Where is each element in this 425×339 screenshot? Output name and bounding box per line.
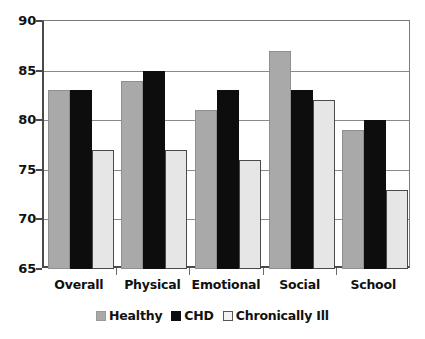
y-axis-tick-85 bbox=[36, 70, 42, 72]
x-axis-tick-1 bbox=[116, 268, 117, 275]
plot-area bbox=[42, 20, 410, 268]
bar-chronically-ill-social bbox=[313, 100, 335, 269]
y-axis-tick-90 bbox=[36, 20, 42, 22]
chd-swatch bbox=[171, 311, 181, 321]
legend-label-chronically-ill: Chronically Ill bbox=[236, 308, 329, 323]
chronically-ill-swatch bbox=[223, 311, 233, 321]
y-axis-tick-65 bbox=[36, 268, 42, 270]
legend-item-chronically-ill[interactable]: Chronically Ill bbox=[223, 308, 329, 323]
x-axis-tick-4 bbox=[336, 268, 337, 275]
bar-healthy-physical bbox=[121, 81, 143, 269]
legend-label-chd: CHD bbox=[184, 308, 213, 323]
x-axis-tick-3 bbox=[263, 268, 264, 275]
legend-item-healthy[interactable]: Healthy bbox=[96, 308, 162, 323]
bar-chronically-ill-school bbox=[386, 190, 408, 269]
grouped-bar-chart: 657075808590 OverallPhysicalEmotionalSoc… bbox=[0, 0, 425, 339]
bar-chronically-ill-physical bbox=[165, 150, 187, 269]
x-axis-label-overall: Overall bbox=[54, 277, 103, 292]
y-axis-label-70: 70 bbox=[0, 211, 36, 226]
y-axis-label-75: 75 bbox=[0, 161, 36, 176]
bar-chd-physical bbox=[143, 71, 165, 269]
bar-healthy-emotional bbox=[195, 110, 217, 269]
x-axis-tick-2 bbox=[189, 268, 190, 275]
y-axis-tick-75 bbox=[36, 169, 42, 171]
y-axis-tick-labels: 657075808590 bbox=[0, 20, 36, 268]
x-axis-label-social: Social bbox=[279, 277, 320, 292]
bar-chd-school bbox=[364, 120, 386, 269]
chart-legend: HealthyCHDChronically Ill bbox=[0, 308, 425, 323]
bar-chd-emotional bbox=[217, 90, 239, 269]
bar-chronically-ill-overall bbox=[92, 150, 114, 269]
y-axis-tick-70 bbox=[36, 218, 42, 220]
y-axis-label-90: 90 bbox=[0, 13, 36, 28]
bar-chd-social bbox=[291, 90, 313, 269]
y-axis-tick-80 bbox=[36, 119, 42, 121]
y-axis-label-80: 80 bbox=[0, 112, 36, 127]
bar-chd-overall bbox=[70, 90, 92, 269]
legend-item-chd[interactable]: CHD bbox=[171, 308, 213, 323]
healthy-swatch bbox=[96, 311, 106, 321]
bar-chronically-ill-emotional bbox=[239, 160, 261, 269]
x-axis-label-emotional: Emotional bbox=[192, 277, 261, 292]
y-axis-label-65: 65 bbox=[0, 261, 36, 276]
y-axis-label-85: 85 bbox=[0, 62, 36, 77]
bar-healthy-school bbox=[342, 130, 364, 269]
bar-healthy-social bbox=[269, 51, 291, 269]
x-axis-label-physical: Physical bbox=[124, 277, 180, 292]
bar-healthy-overall bbox=[48, 90, 70, 269]
x-axis-category-labels: OverallPhysicalEmotionalSocialSchool bbox=[42, 277, 410, 299]
bars-layer bbox=[44, 21, 409, 266]
legend-label-healthy: Healthy bbox=[109, 308, 162, 323]
x-axis-label-school: School bbox=[350, 277, 396, 292]
